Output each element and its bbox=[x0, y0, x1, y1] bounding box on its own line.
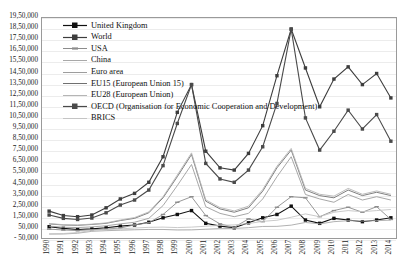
data-point-marker bbox=[161, 214, 165, 215]
data-point-marker bbox=[346, 108, 349, 111]
data-point-marker bbox=[275, 213, 278, 216]
data-point-marker bbox=[190, 209, 193, 212]
data-point-marker bbox=[133, 198, 136, 201]
legend-item-label: OECD (Organisation for Economic Cooperat… bbox=[91, 103, 317, 111]
x-axis-tick-label: 1998 bbox=[158, 240, 165, 254]
chart-legend: United KingdomWorldUSAChinaEuro areaEU15… bbox=[62, 20, 317, 124]
data-point-marker bbox=[47, 213, 50, 216]
data-point-marker bbox=[119, 197, 122, 200]
x-axis-tick-label: 2001 bbox=[201, 240, 208, 254]
data-point-marker bbox=[47, 228, 51, 229]
legend-swatch-icon bbox=[62, 101, 88, 112]
data-point-marker bbox=[361, 83, 364, 86]
legend-item[interactable]: EU15 (European Union 15) bbox=[62, 78, 317, 90]
legend-swatch-icon bbox=[62, 78, 88, 89]
data-point-marker bbox=[375, 113, 378, 116]
data-point-marker bbox=[76, 218, 79, 221]
data-point-marker bbox=[389, 96, 392, 99]
data-point-marker bbox=[147, 222, 151, 223]
data-point-marker bbox=[132, 224, 136, 225]
data-point-marker bbox=[233, 168, 236, 171]
data-point-marker bbox=[189, 196, 193, 197]
data-point-marker bbox=[119, 203, 122, 206]
legend-item[interactable]: World bbox=[62, 32, 317, 44]
legend-item-label: China bbox=[91, 56, 111, 64]
x-axis-tick-label: 1994 bbox=[101, 240, 108, 254]
data-point-marker bbox=[332, 77, 335, 80]
series-line bbox=[49, 150, 391, 225]
x-axis-tick-label: 2005 bbox=[258, 240, 265, 254]
data-point-marker bbox=[375, 218, 378, 221]
legend-swatch-icon bbox=[62, 55, 88, 66]
legend-swatch-icon bbox=[62, 113, 88, 124]
y-axis-tick-label: 4,50,000 bbox=[13, 180, 38, 187]
y-axis-tick-label: 7,50,000 bbox=[13, 147, 38, 154]
data-point-marker bbox=[47, 225, 50, 228]
y-axis-tick-label: 5,50,000 bbox=[13, 169, 38, 176]
x-axis-tick-label: 1996 bbox=[130, 240, 137, 254]
plot-area: United KingdomWorldUSAChinaEuro areaEU15… bbox=[41, 17, 397, 239]
y-axis-tick-label: 10,50,000 bbox=[9, 113, 38, 120]
legend-item[interactable]: United Kingdom bbox=[62, 20, 317, 32]
line-chart: 19,50,00018,50,00017,50,00016,50,00015,5… bbox=[0, 0, 405, 280]
x-axis-tick-label: 1991 bbox=[58, 240, 65, 254]
data-point-marker bbox=[303, 197, 307, 198]
y-axis-tick-label: 14,50,000 bbox=[9, 69, 38, 76]
data-point-marker bbox=[161, 216, 164, 219]
data-point-marker bbox=[204, 150, 207, 153]
data-point-marker bbox=[261, 124, 264, 127]
data-point-marker bbox=[62, 217, 65, 220]
legend-item-label: BRICS bbox=[91, 114, 115, 122]
data-point-marker bbox=[332, 217, 335, 220]
legend-swatch-icon bbox=[62, 67, 88, 78]
data-point-marker bbox=[232, 227, 236, 228]
data-point-marker bbox=[374, 206, 378, 207]
data-point-marker bbox=[147, 181, 150, 184]
legend-item-label: USA bbox=[91, 45, 108, 53]
legend-item[interactable]: OECD (Organisation for Economic Cooperat… bbox=[62, 101, 317, 113]
data-point-marker bbox=[318, 148, 321, 151]
legend-item-label: EU15 (European Union 15) bbox=[91, 80, 184, 88]
legend-item-label: World bbox=[91, 33, 112, 41]
y-axis-tick-label: 6,50,000 bbox=[13, 158, 38, 165]
legend-swatch-icon bbox=[62, 90, 88, 101]
data-point-marker bbox=[289, 196, 293, 197]
y-axis-tick-label: 3,50,000 bbox=[13, 191, 38, 198]
data-point-marker bbox=[90, 216, 93, 219]
y-axis-tick-label: 8,50,000 bbox=[13, 135, 38, 142]
x-axis-tick-label: 2003 bbox=[229, 240, 236, 254]
legend-item[interactable]: China bbox=[62, 55, 317, 67]
y-axis-tick-label: 11,50,000 bbox=[10, 102, 38, 109]
x-axis-tick-label: 1995 bbox=[115, 240, 122, 254]
legend-item[interactable]: Euro area bbox=[62, 66, 317, 78]
y-axis-tick-label: 50,000 bbox=[18, 224, 38, 231]
data-point-marker bbox=[75, 230, 79, 231]
x-axis-tick-label: 2007 bbox=[286, 240, 293, 254]
data-point-marker bbox=[275, 207, 279, 208]
x-axis-tick-label: 1997 bbox=[144, 240, 151, 254]
data-point-marker bbox=[318, 105, 321, 108]
data-point-marker bbox=[176, 213, 179, 216]
data-point-marker bbox=[389, 140, 392, 143]
x-axis-tick-label: 2011 bbox=[343, 240, 350, 254]
legend-item-label: EU28 (European Union) bbox=[91, 91, 173, 99]
data-point-marker bbox=[175, 202, 179, 203]
legend-item[interactable]: BRICS bbox=[62, 113, 317, 125]
x-axis-tick-label: 2008 bbox=[300, 240, 307, 254]
data-point-marker bbox=[332, 130, 335, 133]
data-point-marker bbox=[204, 162, 207, 165]
x-axis-tick-label: 1999 bbox=[172, 240, 179, 254]
y-axis-tick-label: 18,50,000 bbox=[9, 24, 38, 31]
data-point-marker bbox=[332, 210, 336, 211]
x-axis-tick-label: 2006 bbox=[272, 240, 279, 254]
y-axis-tick-label: 16,50,000 bbox=[9, 47, 38, 54]
data-point-marker bbox=[290, 204, 293, 207]
data-point-marker bbox=[247, 152, 250, 155]
data-point-marker bbox=[304, 218, 307, 221]
data-point-marker bbox=[104, 211, 107, 214]
data-point-marker bbox=[361, 220, 364, 223]
legend-item[interactable]: USA bbox=[62, 43, 317, 55]
legend-item[interactable]: EU28 (European Union) bbox=[62, 90, 317, 102]
y-axis-tick-label: - 50,000 bbox=[14, 235, 38, 242]
x-axis-tick-label: 1990 bbox=[44, 240, 51, 254]
